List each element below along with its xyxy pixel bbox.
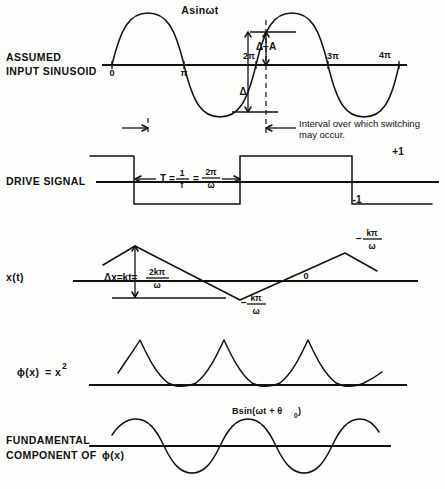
panel-drive-signal: +1 -1 DRIVE SIGNAL T = 1 f = 2π xyxy=(6,146,438,205)
period-eq-lead: T xyxy=(160,173,166,184)
xt-peak-label-sign: − xyxy=(356,233,362,244)
xt-peak-label-denominator: ω xyxy=(368,241,375,251)
xt-trough-label-denominator: ω xyxy=(252,306,259,316)
tick-label-3pi: 3π xyxy=(327,51,339,61)
fundamental-curve-label-suffix: ) xyxy=(298,406,301,416)
phi-row-label-prefix: ϕ(x) xyxy=(17,366,39,378)
panel-fundamental-component: FUNDAMENTAL COMPONENT OF ϕ(x) Bsin(ωt + … xyxy=(6,406,390,473)
xt-row-label: x(t) xyxy=(6,271,24,283)
period-eq-frac1-numerator: 1 xyxy=(180,168,185,178)
phi-row-label: ϕ(x) = x 2 xyxy=(17,361,67,378)
drive-high-label: +1 xyxy=(392,146,404,157)
phi-row-label-base: x xyxy=(55,366,61,378)
period-eq-rel1: = xyxy=(169,173,175,184)
tick-label-2pi: 2π xyxy=(243,51,255,61)
sinusoid-row-label-line1: ASSUMED xyxy=(6,51,61,63)
fundamental-row-label-line2-prefix: COMPONENT OF xyxy=(6,449,97,461)
xt-amplitude-eq-numerator: 2kπ xyxy=(149,267,165,277)
drive-row-label: DRIVE SIGNAL xyxy=(6,175,86,187)
tick-label-4pi: 4π xyxy=(379,50,391,60)
xt-zero-label: 0 xyxy=(303,271,308,281)
drive-low-label: -1 xyxy=(353,194,362,205)
figure-canvas: 0 π 2π 3π 4π Asinωt ASSUMED INPUT SINUSO… xyxy=(0,0,445,489)
xt-triangle-wave xyxy=(103,246,377,300)
fundamental-row-label-line2-suffix: ϕ(x) xyxy=(102,449,124,461)
xt-trough-label-numerator: kπ xyxy=(250,293,262,303)
xt-trough-label: − kπ ω xyxy=(241,293,266,316)
fundamental-curve-label-prefix: Bsin(ωt + θ xyxy=(232,406,282,416)
sinusoid-curve-label: Asinωt xyxy=(181,4,219,16)
period-eq-frac2-denominator: ω xyxy=(207,180,214,190)
panel-assumed-input-sinusoid: 0 π 2π 3π 4π Asinωt ASSUMED INPUT SINUSO… xyxy=(6,4,420,140)
tick-label-pi: π xyxy=(181,68,188,78)
fundamental-curve-label: Bsin(ωt + θ 0 ) xyxy=(232,406,301,418)
panel-x-of-t: x(t) Δx=kt= 2kπ ω − kπ ω xyxy=(6,228,417,316)
phi-row-label-exponent: 2 xyxy=(62,361,67,371)
waveform-diagram: 0 π 2π 3π 4π Asinωt ASSUMED INPUT SINUSO… xyxy=(0,0,445,489)
panel-phi-of-x: ϕ(x) = x 2 xyxy=(17,340,406,386)
period-eq-frac1-denominator: f xyxy=(181,180,184,190)
fundamental-row-label-line1: FUNDAMENTAL xyxy=(6,434,90,446)
switching-note-line2: may occur. xyxy=(299,129,345,140)
phi-row-label-rel: = xyxy=(45,366,52,378)
switching-note-line1: Interval over which switching xyxy=(299,118,420,129)
xt-amplitude-eq-lead: Δx=kt= xyxy=(104,272,137,283)
period-equation: T = 1 f = 2π ω xyxy=(160,167,220,190)
xt-peak-label-numerator: kπ xyxy=(366,228,378,238)
sinusoid-row-label-line2: INPUT SINUSOID xyxy=(6,65,97,77)
xt-peak-label: − kπ ω xyxy=(356,228,382,251)
delta-label: Δ xyxy=(239,86,246,97)
phi-curve xyxy=(118,340,382,386)
xt-trough-label-sign: − xyxy=(241,297,247,308)
period-eq-rel2: = xyxy=(193,173,199,184)
tick-label-0: 0 xyxy=(109,68,114,78)
xt-amplitude-equation: Δx=kt= 2kπ ω xyxy=(104,267,169,290)
period-eq-frac2-numerator: 2π xyxy=(205,167,217,177)
drive-square-wave xyxy=(90,156,432,204)
xt-amplitude-eq-denominator: ω xyxy=(153,280,160,290)
fundamental-row-label-line2: COMPONENT OF ϕ(x) xyxy=(6,449,124,461)
delta-dimension xyxy=(245,32,251,112)
